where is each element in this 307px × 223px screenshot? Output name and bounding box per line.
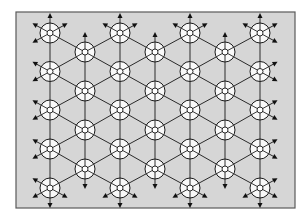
- node-inner-circle: [82, 127, 88, 133]
- node-inner-circle: [152, 166, 158, 172]
- node-inner-circle: [222, 127, 228, 133]
- lattice-node: [215, 159, 235, 179]
- node-inner-circle: [257, 69, 263, 75]
- lattice-diagram: [0, 0, 307, 223]
- node-inner-circle: [117, 30, 123, 36]
- node-inner-circle: [222, 166, 228, 172]
- lattice-node: [145, 120, 165, 140]
- node-inner-circle: [47, 30, 53, 36]
- lattice-node: [250, 139, 270, 159]
- node-inner-circle: [117, 69, 123, 75]
- lattice-node: [75, 120, 95, 140]
- node-inner-circle: [257, 185, 263, 191]
- node-inner-circle: [187, 107, 193, 113]
- node-inner-circle: [117, 185, 123, 191]
- lattice-node: [75, 81, 95, 101]
- lattice-node: [250, 62, 270, 82]
- lattice-node: [110, 23, 130, 43]
- node-inner-circle: [187, 185, 193, 191]
- node-inner-circle: [47, 107, 53, 113]
- lattice-node: [110, 139, 130, 159]
- lattice-node: [75, 159, 95, 179]
- node-inner-circle: [117, 146, 123, 152]
- lattice-node: [145, 159, 165, 179]
- lattice-node: [180, 100, 200, 120]
- node-inner-circle: [187, 69, 193, 75]
- node-inner-circle: [222, 49, 228, 55]
- node-inner-circle: [152, 88, 158, 94]
- node-inner-circle: [187, 146, 193, 152]
- lattice-node: [40, 139, 60, 159]
- lattice-node: [250, 100, 270, 120]
- lattice-node: [180, 62, 200, 82]
- lattice-node: [40, 23, 60, 43]
- lattice-node: [180, 178, 200, 198]
- node-inner-circle: [187, 30, 193, 36]
- node-inner-circle: [82, 88, 88, 94]
- lattice-node: [40, 62, 60, 82]
- lattice-node: [215, 120, 235, 140]
- lattice-node: [145, 42, 165, 62]
- lattice-node: [40, 100, 60, 120]
- node-inner-circle: [82, 49, 88, 55]
- node-inner-circle: [257, 146, 263, 152]
- lattice-node: [145, 81, 165, 101]
- lattice-node: [110, 178, 130, 198]
- lattice-node: [40, 178, 60, 198]
- lattice-node: [250, 178, 270, 198]
- node-inner-circle: [257, 107, 263, 113]
- lattice-node: [180, 139, 200, 159]
- lattice-node: [250, 23, 270, 43]
- node-inner-circle: [117, 107, 123, 113]
- node-inner-circle: [152, 127, 158, 133]
- lattice-node: [215, 42, 235, 62]
- lattice-node: [75, 42, 95, 62]
- node-inner-circle: [47, 185, 53, 191]
- node-inner-circle: [222, 88, 228, 94]
- lattice-node: [215, 81, 235, 101]
- lattice-node: [110, 62, 130, 82]
- node-inner-circle: [257, 30, 263, 36]
- lattice-node: [110, 100, 130, 120]
- node-inner-circle: [82, 166, 88, 172]
- lattice-node: [180, 23, 200, 43]
- node-inner-circle: [47, 146, 53, 152]
- node-inner-circle: [152, 49, 158, 55]
- node-inner-circle: [47, 69, 53, 75]
